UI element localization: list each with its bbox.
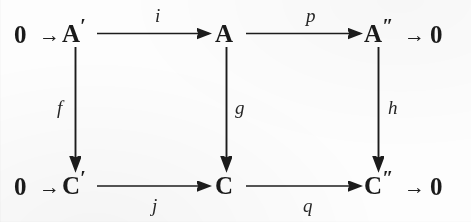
- top-left-short-arrow-icon: →: [39, 25, 60, 46]
- node-a-prime-mark: ′: [80, 15, 86, 37]
- node-c: C: [215, 173, 233, 198]
- node-c-symbol: C: [215, 172, 233, 199]
- node-a-symbol: A: [215, 20, 233, 47]
- top-right-short-arrow-icon: →: [404, 25, 425, 46]
- node-c-double-prime-symbol: C: [364, 172, 382, 199]
- node-a-double-prime: A″: [364, 21, 394, 46]
- node-c-double-prime: C″: [364, 173, 394, 198]
- node-a-prime: A′: [62, 21, 86, 46]
- node-a-double-prime-mark: ″: [382, 15, 393, 37]
- map-label-i: i: [155, 6, 160, 25]
- top-left-zero: 0: [14, 22, 27, 47]
- node-a-double-prime-symbol: A: [364, 20, 382, 47]
- map-label-p: p: [306, 6, 316, 25]
- map-label-f: f: [57, 98, 62, 117]
- top-right-zero: 0: [430, 22, 443, 47]
- bottom-right-zero: 0: [430, 174, 443, 199]
- map-label-q: q: [303, 196, 313, 215]
- node-c-prime-symbol: C: [62, 172, 80, 199]
- node-a: A: [215, 21, 233, 46]
- map-label-g: g: [235, 98, 245, 117]
- bottom-left-short-arrow-icon: →: [39, 177, 60, 198]
- bottom-left-zero: 0: [14, 174, 27, 199]
- bottom-right-short-arrow-icon: →: [404, 177, 425, 198]
- node-c-prime: C′: [62, 173, 86, 198]
- node-c-prime-mark: ′: [80, 167, 86, 189]
- commutative-diagram: A --> A'' --> C --> C'' --> 0 → A′ i A p…: [0, 0, 471, 222]
- map-label-h: h: [388, 98, 398, 117]
- map-label-j: j: [152, 196, 157, 215]
- node-a-prime-symbol: A: [62, 20, 80, 47]
- node-c-double-prime-mark: ″: [382, 167, 393, 189]
